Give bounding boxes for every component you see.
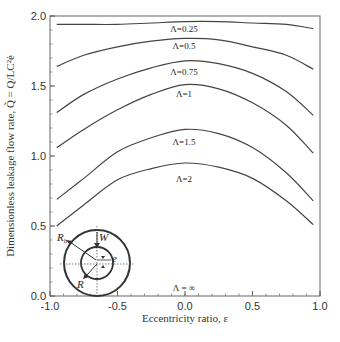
- leakage-flow-chart: -1.0-0.50.00.51.00.00.51.01.52.0 Λ=0.25Λ…: [0, 0, 340, 342]
- y-tick-label: 1.0: [31, 150, 46, 162]
- curve-labels: Λ=0.25Λ=0.5Λ=0.75Λ=1Λ=1.5Λ=2Λ = ∞: [170, 24, 198, 293]
- curve-series-5: [57, 163, 314, 226]
- curve-label: Λ=1.5: [173, 137, 196, 147]
- y-tick-label: 0.0: [31, 290, 46, 302]
- curve-label: Λ = ∞: [173, 283, 195, 293]
- curve-label: Λ=2: [176, 174, 192, 184]
- y-tick-label: 0.5: [31, 220, 46, 232]
- inset-label-e: e: [112, 252, 117, 264]
- inset-label-w: W: [99, 231, 109, 243]
- y-tick-label: 2.0: [31, 10, 46, 22]
- x-tick-label: 0.5: [245, 300, 260, 312]
- inset-label-r: R: [76, 278, 84, 290]
- curves: [57, 21, 314, 226]
- r-arrow: [86, 264, 97, 276]
- e-arrow-down-icon: [101, 256, 105, 259]
- curve-label: Λ=0.25: [170, 24, 198, 34]
- y-axis-title: Dimensionless leakage flow rate, Q̃ = Q/…: [4, 55, 16, 257]
- plot-frame: [50, 16, 320, 296]
- plot-border: [50, 16, 320, 296]
- axis-ticks: -1.0-0.50.00.51.00.00.51.01.52.0: [31, 10, 328, 312]
- curve-label: Λ=0.5: [173, 41, 196, 51]
- x-tick-label: -0.5: [108, 300, 127, 312]
- inset-label-rb: Rb: [56, 231, 68, 245]
- curve-label: Λ=0.75: [170, 67, 198, 77]
- x-axis-title: Eccentricity ratio, ε: [142, 312, 229, 324]
- y-tick-label: 1.5: [31, 80, 46, 92]
- inset-diagram: Rb W e R: [56, 226, 134, 298]
- e-arrow-up-icon: [101, 265, 105, 268]
- x-tick-label: 1.0: [312, 300, 327, 312]
- curve-label: Λ=1: [176, 89, 192, 99]
- x-tick-label: 0.0: [177, 300, 192, 312]
